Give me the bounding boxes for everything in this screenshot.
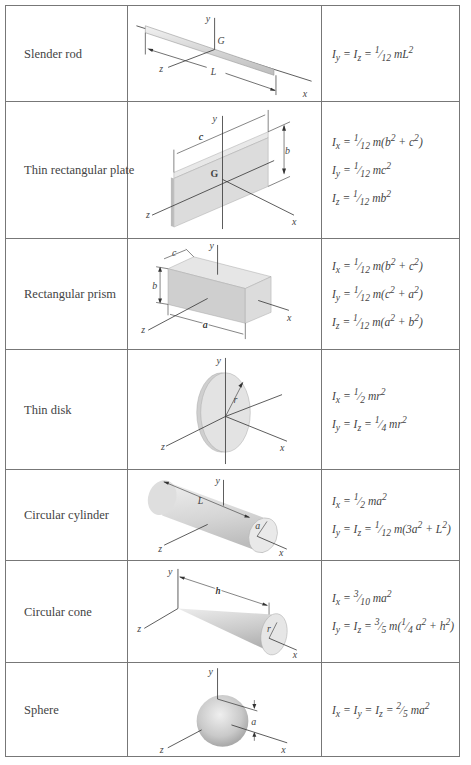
- table-row: Rectangular prism: [6, 239, 459, 350]
- shape-figure-cell: y h h z r x: [128, 561, 322, 662]
- shape-figure-cell: y c b z a a x: [128, 239, 322, 349]
- formula: Ix = 3⁄10 ma2: [332, 583, 454, 611]
- formula: Iy = Iz = 1⁄12 mL2: [332, 39, 413, 67]
- sphere-figure: y a z x: [128, 663, 321, 757]
- svg-text:a: a: [251, 716, 256, 727]
- svg-text:z: z: [136, 623, 141, 634]
- shape-name: Rectangular prism: [24, 287, 116, 302]
- formula-cell: Ix = Iy = Iz = 2⁄5 ma2: [322, 663, 460, 757]
- svg-text:z: z: [157, 543, 162, 554]
- formula: Ix = 1⁄12 m(b2 + c2): [332, 252, 423, 280]
- svg-text:y: y: [208, 666, 214, 677]
- svg-text:b: b: [285, 145, 290, 156]
- formula: Iz = 1⁄12 m(a2 + b2): [332, 308, 423, 336]
- formula-cell: Ix = 1⁄12 m(b2 + c2) Iy = 1⁄12 m(c2 + a2…: [322, 239, 460, 349]
- svg-text:a: a: [255, 520, 260, 531]
- formula-cell: Ix = 3⁄10 ma2 Iy = Iz = 3⁄5 m(1⁄4 a2 + h…: [322, 561, 460, 662]
- formula: Iy = Iz = 1⁄4 mr2: [332, 410, 407, 438]
- svg-text:h: h: [216, 585, 221, 596]
- formula: Iz = 1⁄12 mb2: [332, 184, 423, 212]
- svg-text:r: r: [267, 623, 271, 634]
- svg-text:y: y: [167, 566, 173, 577]
- svg-text:G: G: [211, 168, 219, 179]
- thin-disk-figure: y r z x: [128, 350, 321, 469]
- shape-name-cell: Rectangular prism: [6, 239, 128, 349]
- formula: Ix = 1⁄12 m(b2 + c2): [332, 128, 423, 156]
- shape-figure-cell: y r z x: [128, 350, 322, 469]
- formula: Ix = 1⁄2 ma2: [332, 487, 451, 515]
- shape-figure-cell: y L a z x: [128, 470, 322, 560]
- shape-name-cell: Thin rectangular plate: [6, 102, 128, 238]
- shape-name: Circular cone: [24, 604, 92, 619]
- formula: Iy = 1⁄12 mc2: [332, 156, 423, 184]
- svg-text:y: y: [215, 475, 221, 486]
- shape-figure-cell: y a z x: [128, 663, 322, 757]
- table-row: Slender rod: [6, 6, 459, 102]
- svg-text:y: y: [216, 355, 222, 366]
- circular-cone-figure: y h h z r x: [128, 561, 321, 662]
- formula: Iy = 1⁄12 m(c2 + a2): [332, 280, 423, 308]
- shape-figure-cell: y G z L x: [128, 6, 322, 101]
- shape-name-cell: Sphere: [6, 663, 128, 757]
- formula: Iy = Iz = 1⁄12 m(3a2 + L2): [332, 515, 451, 543]
- formula-cell: Ix = 1⁄2 ma2 Iy = Iz = 1⁄12 m(3a2 + L2): [322, 470, 460, 560]
- svg-text:x: x: [292, 649, 298, 660]
- formula: Ix = 1⁄2 mr2: [332, 381, 407, 409]
- svg-text:c: c: [199, 131, 204, 142]
- formula: Iy = Iz = 3⁄5 m(1⁄4 a2 + h2): [332, 612, 454, 640]
- thin-plate-figure: y c c b G z x: [128, 102, 321, 238]
- formula-cell: Ix = 1⁄2 mr2 Iy = Iz = 1⁄4 mr2: [322, 350, 460, 469]
- slender-rod-figure: y G z L x: [128, 6, 321, 101]
- svg-text:x: x: [279, 442, 285, 453]
- shape-name: Circular cylinder: [24, 508, 109, 523]
- shape-name: Sphere: [24, 703, 59, 718]
- svg-text:b: b: [152, 280, 157, 291]
- table-row: Thin rectangular plate: [6, 102, 459, 239]
- svg-text:L: L: [210, 66, 217, 77]
- table-row: Sphere: [6, 663, 459, 757]
- formula-cell: Iy = Iz = 1⁄12 mL2: [322, 6, 460, 101]
- svg-text:z: z: [160, 441, 165, 452]
- svg-text:y: y: [205, 13, 211, 24]
- svg-text:x: x: [286, 312, 292, 323]
- circular-cylinder-figure: y L a z x: [128, 470, 321, 560]
- table-row: Circular cylinder: [6, 470, 459, 561]
- svg-text:z: z: [145, 209, 150, 220]
- svg-text:c: c: [172, 247, 177, 258]
- svg-text:y: y: [212, 113, 218, 124]
- svg-text:x: x: [291, 216, 297, 227]
- shape-name: Thin rectangular plate: [24, 163, 134, 178]
- svg-text:x: x: [302, 88, 308, 99]
- svg-text:a: a: [203, 319, 208, 330]
- shape-figure-cell: y c c b G z x: [128, 102, 322, 238]
- table-row: Circular cone: [6, 561, 459, 663]
- svg-text:z: z: [158, 63, 163, 74]
- svg-text:z: z: [159, 744, 164, 755]
- svg-text:y: y: [209, 240, 215, 251]
- shape-name: Slender rod: [24, 46, 82, 61]
- formula: Ix = Iy = Iz = 2⁄5 ma2: [332, 696, 430, 724]
- svg-text:r: r: [233, 394, 237, 405]
- moments-of-inertia-table: Slender rod: [5, 5, 460, 757]
- shape-name-cell: Circular cylinder: [6, 470, 128, 560]
- svg-text:G: G: [218, 35, 225, 46]
- table-row: Thin disk y r z x: [6, 350, 459, 470]
- shape-name-cell: Slender rod: [6, 6, 128, 101]
- svg-text:z: z: [140, 324, 145, 335]
- shape-name-cell: Thin disk: [6, 350, 128, 469]
- rectangular-prism-figure: y c b z a a x: [128, 239, 321, 349]
- formula-cell: Ix = 1⁄12 m(b2 + c2) Iy = 1⁄12 mc2 Iz = …: [322, 102, 460, 238]
- svg-text:L: L: [197, 495, 204, 506]
- shape-name: Thin disk: [24, 402, 72, 417]
- svg-text:x: x: [280, 744, 286, 755]
- shape-name-cell: Circular cone: [6, 561, 128, 662]
- svg-text:x: x: [278, 547, 284, 558]
